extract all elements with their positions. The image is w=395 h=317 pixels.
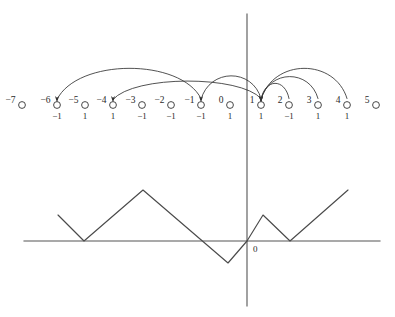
node-index-label: −7 xyxy=(5,95,15,105)
zigzag-curve xyxy=(58,190,348,263)
node-value-label: 1 xyxy=(316,111,321,121)
node-circle-icon[interactable] xyxy=(110,102,117,109)
node-index-label: 1 xyxy=(250,95,255,105)
arc-4-to-1 xyxy=(261,68,347,99)
node-index-label: 3 xyxy=(307,95,312,105)
node-index-label: 5 xyxy=(365,95,370,105)
node-index-label: −4 xyxy=(96,95,106,105)
arc-2-to-1 xyxy=(261,83,289,99)
node-circle-icon[interactable] xyxy=(344,102,351,109)
number-line-node[interactable]: −2−1 xyxy=(154,95,175,121)
figure-canvas: 0 −7−6−1−51−41−3−1−2−1−1−101112−131415 xyxy=(0,0,395,317)
node-value-label: 1 xyxy=(228,111,233,121)
number-line-nodes: −7−6−1−51−41−3−1−2−1−1−101112−131415 xyxy=(5,95,379,121)
node-index-label: −5 xyxy=(68,95,78,105)
number-line-node[interactable]: 2−1 xyxy=(278,95,294,121)
node-value-label: 1 xyxy=(111,111,116,121)
node-circle-icon[interactable] xyxy=(373,102,380,109)
node-index-label: 0 xyxy=(219,95,224,105)
number-line-node[interactable]: −1−1 xyxy=(184,95,205,121)
number-line-node[interactable]: −51 xyxy=(68,95,88,121)
number-line-node[interactable]: 31 xyxy=(307,95,322,121)
node-index-label: −6 xyxy=(40,95,50,105)
node-circle-icon[interactable] xyxy=(227,102,234,109)
node-value-label: −1 xyxy=(284,111,294,121)
zigzag-polyline xyxy=(58,190,348,263)
node-circle-icon[interactable] xyxy=(198,102,205,109)
math-figure: 0 −7−6−1−51−41−3−1−2−1−1−101112−131415 xyxy=(0,0,395,317)
origin-zero-label: 0 xyxy=(253,244,258,254)
node-circle-icon[interactable] xyxy=(82,102,89,109)
node-value-label: −1 xyxy=(137,111,147,121)
node-value-label: 1 xyxy=(83,111,88,121)
node-index-label: −1 xyxy=(184,95,194,105)
number-line-node[interactable]: −7 xyxy=(5,95,25,108)
node-value-label: −1 xyxy=(52,111,62,121)
number-line-node[interactable]: 41 xyxy=(336,95,351,121)
node-value-label: 1 xyxy=(345,111,350,121)
number-line-node[interactable]: 01 xyxy=(219,95,234,121)
node-index-label: 4 xyxy=(336,95,341,105)
number-line-node[interactable]: 5 xyxy=(365,95,380,108)
node-index-label: −2 xyxy=(154,95,164,105)
node-value-label: 1 xyxy=(259,111,264,121)
node-value-label: −1 xyxy=(196,111,206,121)
node-circle-icon[interactable] xyxy=(54,102,61,109)
node-value-label: −1 xyxy=(166,111,176,121)
graph-axes xyxy=(24,14,380,306)
node-circle-icon[interactable] xyxy=(258,102,265,109)
number-line-node[interactable]: −6−1 xyxy=(40,95,61,121)
node-circle-icon[interactable] xyxy=(139,102,146,109)
number-line-node[interactable]: −3−1 xyxy=(125,95,146,121)
node-circle-icon[interactable] xyxy=(286,102,293,109)
node-index-label: 2 xyxy=(278,95,283,105)
node-circle-icon[interactable] xyxy=(315,102,322,109)
number-line-node[interactable]: 11 xyxy=(250,95,265,121)
node-circle-icon[interactable] xyxy=(168,102,175,109)
node-circle-icon[interactable] xyxy=(19,102,26,109)
origin-label: 0 xyxy=(253,244,258,254)
node-index-label: −3 xyxy=(125,95,135,105)
